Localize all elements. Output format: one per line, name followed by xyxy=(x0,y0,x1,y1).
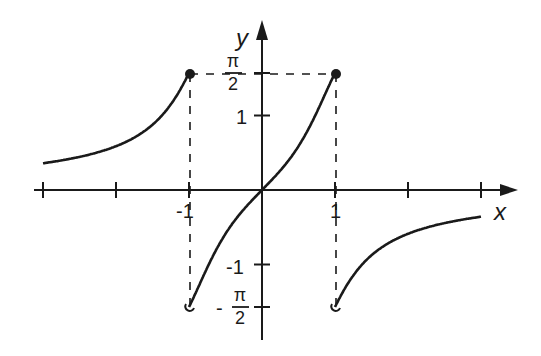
x-tick-label-neg1: -1 xyxy=(176,200,194,222)
x-axis-arrow-icon xyxy=(500,184,518,196)
x-axis xyxy=(34,184,518,196)
x-tick-label-pos1: 1 xyxy=(330,200,341,222)
curve-branch-right xyxy=(335,217,481,307)
pi-symbol: π xyxy=(234,285,246,305)
x-axis-label: x xyxy=(493,198,507,225)
y-axis-arrow-icon xyxy=(256,20,268,40)
filled-point-left xyxy=(185,69,195,79)
minus-sign: - xyxy=(216,297,223,319)
denominator-two: 2 xyxy=(235,308,245,328)
y-axis-label: y xyxy=(234,24,250,51)
y-tick-label-pi-half: π 2 xyxy=(225,51,242,94)
y-axis xyxy=(256,20,268,340)
pi-symbol: π xyxy=(227,51,239,71)
y-tick-label-pos1: 1 xyxy=(236,106,247,128)
curve-branch-left xyxy=(43,73,189,163)
function-plot: y x -1 1 π 2 1 -1 - π 2 xyxy=(0,0,541,356)
y-tick-label-neg-pi-half: - π 2 xyxy=(216,285,249,328)
denominator-two: 2 xyxy=(228,74,238,94)
y-tick-label-neg1: -1 xyxy=(226,256,244,278)
filled-point-right xyxy=(331,69,341,79)
